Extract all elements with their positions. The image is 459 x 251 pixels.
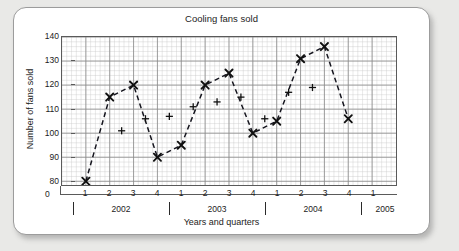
x-tick-label-quarter: 4 [347, 188, 352, 198]
y-axis-ticks: 8090100110120130140 [26, 36, 59, 196]
x-axis-year-label: 2003 [208, 204, 227, 214]
x-tick-label-quarter: 4 [251, 188, 256, 198]
x-tick-label-quarter: 1 [179, 188, 184, 198]
data-series-layer [62, 37, 396, 186]
x-tick-label-quarter: 1 [371, 188, 376, 198]
x-tick-label-quarter: 3 [227, 188, 232, 198]
x-axis-quarter-ticks: 1234123412341 [61, 188, 397, 202]
y-tick-label: 80 [29, 176, 59, 186]
y-tick-mark [71, 60, 75, 61]
chart-card: Cooling fans sold Number of fans sold 80… [13, 7, 430, 235]
y-tick-mark [71, 133, 75, 134]
y-tick-label: 100 [29, 128, 59, 138]
x-tick-label-quarter: 2 [203, 188, 208, 198]
plot-area [61, 36, 397, 186]
x-tick-label-quarter: 2 [107, 188, 112, 198]
y-tick-mark [71, 181, 75, 182]
year-separator [169, 202, 170, 215]
x-tick-label-quarter: 3 [323, 188, 328, 198]
y-tick-mark [71, 84, 75, 85]
x-tick-label-quarter: 1 [275, 188, 280, 198]
x-tick-label-quarter: 2 [299, 188, 304, 198]
year-separator [361, 202, 362, 215]
year-separator [265, 202, 266, 215]
x-tick-label-quarter: 3 [131, 188, 136, 198]
x-axis-year-label: 2002 [112, 204, 131, 214]
year-separator [73, 202, 74, 215]
x-axis-year-label: 2005 [376, 204, 395, 214]
y-tick-label: 90 [29, 152, 59, 162]
x-axis-label: Years and quarters [14, 217, 429, 227]
x-tick-label-quarter: 4 [155, 188, 160, 198]
y-tick-label: 110 [29, 104, 59, 114]
y-tick-mark [71, 109, 75, 110]
y-axis-zero-label: 0 [45, 189, 50, 199]
screenshot-root: Cooling fans sold Number of fans sold 80… [0, 0, 459, 251]
y-tick-mark [71, 157, 75, 158]
y-tick-label: 130 [29, 55, 59, 65]
y-tick-label: 120 [29, 79, 59, 89]
x-axis-year-label: 2004 [304, 204, 323, 214]
y-tick-mark [71, 36, 75, 37]
chart-title: Cooling fans sold [14, 13, 429, 24]
x-tick-label-quarter: 1 [83, 188, 88, 198]
y-tick-label: 140 [29, 31, 59, 41]
